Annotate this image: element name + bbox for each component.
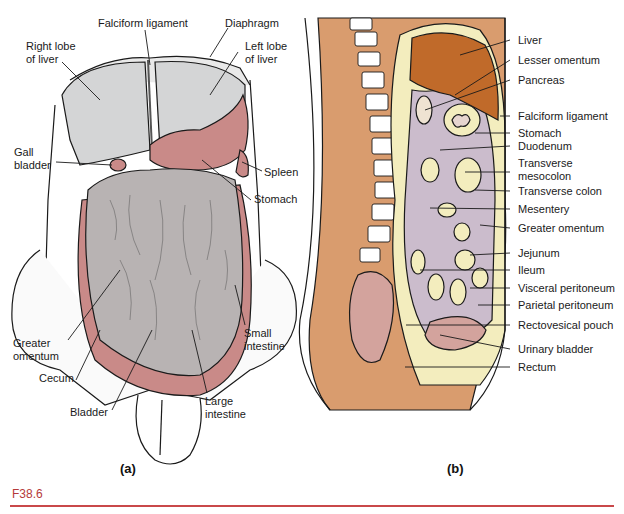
label-lesser-omentum: Lesser omentum [518,54,600,67]
label-falciform-ligament-a: Falciform ligament [98,17,188,30]
label-visceral-peritoneum: Visceral peritoneum [518,282,615,295]
label-duodenum: Duodenum [518,140,572,153]
label-urinary-bladder: Urinary bladder [518,343,593,356]
label-liver: Liver [518,34,542,47]
figure-id: F38.6 [12,487,43,501]
label-diaphragm: Diaphragm [225,17,279,30]
label-ileum: Ileum [518,264,545,277]
label-greater-omentum-b: Greater omentum [518,222,604,235]
label-bladder: Bladder [70,406,108,419]
label-stomach-a: Stomach [254,193,297,206]
label-left-lobe-of-liver: Left lobe of liver [245,40,287,66]
label-transverse-colon: Transverse colon [518,185,602,198]
panel-a-label: (a) [120,461,136,476]
caption-divider [10,505,614,507]
label-gall-bladder: Gall bladder [14,146,51,172]
label-parietal-peritoneum: Parietal peritoneum [518,299,613,312]
label-right-lobe-of-liver: Right lobe of liver [26,40,76,66]
label-rectum: Rectum [518,361,556,374]
label-rectovesical-pouch: Rectovesical pouch [518,319,613,332]
label-spleen: Spleen [264,166,298,179]
label-transverse-mesocolon: Transverse mesocolon [518,157,573,183]
label-greater-omentum-a: Greater omentum [13,337,59,363]
label-large-intestine: Large intestine [205,395,246,421]
label-jejunum: Jejunum [518,247,560,260]
panel-b-label: (b) [447,461,464,476]
label-falciform-ligament-b: Falciform ligament [518,110,608,123]
label-cecum: Cecum [39,372,74,385]
panel-a-artwork [12,28,297,464]
label-mesentery: Mesentery [518,203,569,216]
label-pancreas: Pancreas [518,74,564,87]
label-stomach-b: Stomach [518,127,561,140]
panel-b-artwork [299,18,510,410]
label-small-intestine: Small intestine [244,327,285,353]
